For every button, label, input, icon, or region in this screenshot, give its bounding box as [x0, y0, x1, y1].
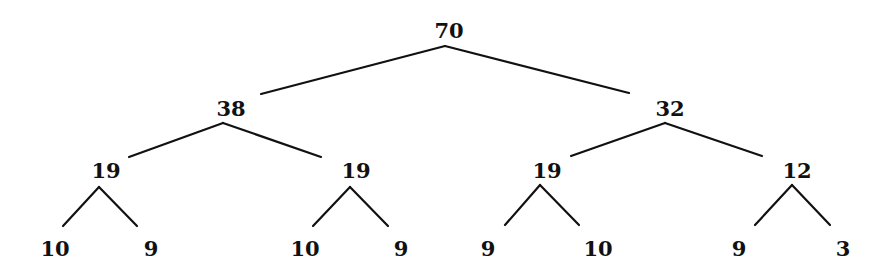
- tree-node-root: 70: [434, 20, 463, 41]
- tree-node-r: 32: [655, 98, 684, 119]
- tree-node-rll: 9: [481, 238, 496, 259]
- tree-edge-rr-rrr: [792, 185, 830, 225]
- tree-diagram: 7038321919191210910991093: [0, 0, 892, 276]
- tree-edge-root-r: [445, 46, 629, 93]
- tree-node-rr: 12: [782, 160, 811, 181]
- tree-edge-lr-lrl: [313, 187, 350, 226]
- tree-node-lll: 10: [40, 238, 69, 259]
- tree-node-lrr: 9: [394, 238, 409, 259]
- tree-edge-rl-rlr: [540, 185, 579, 225]
- tree-node-rl: 19: [532, 160, 561, 181]
- tree-edge-ll-llr: [99, 187, 137, 226]
- tree-edge-l-lr: [223, 123, 321, 157]
- tree-edge-r-rr: [665, 123, 762, 156]
- tree-node-rrl: 9: [732, 238, 747, 259]
- tree-node-lr: 19: [341, 160, 370, 181]
- tree-edge-rl-rll: [505, 185, 540, 225]
- tree-node-ll: 19: [91, 160, 120, 181]
- tree-node-rlr: 10: [583, 238, 612, 259]
- tree-edge-ll-lll: [63, 187, 99, 226]
- tree-node-rrr: 3: [836, 238, 851, 259]
- tree-edge-l-ll: [129, 123, 223, 157]
- tree-node-lrl: 10: [290, 238, 319, 259]
- tree-edge-r-rl: [571, 123, 665, 156]
- tree-node-llr: 9: [144, 238, 159, 259]
- tree-edge-rr-rrl: [755, 185, 792, 225]
- tree-node-l: 38: [216, 98, 245, 119]
- tree-edge-lr-lrr: [350, 187, 388, 226]
- tree-edge-root-l: [261, 46, 445, 94]
